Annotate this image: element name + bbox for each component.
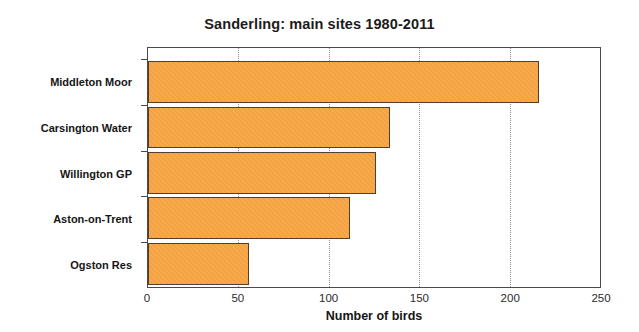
bars-layer xyxy=(148,48,600,287)
bar-ogston-res[interactable] xyxy=(148,243,249,285)
x-axis-tick-label-200: 200 xyxy=(501,292,520,304)
y-axis-label-ogston-res: Ogston Res xyxy=(70,259,132,271)
bar-aston-on-trent[interactable] xyxy=(148,197,350,239)
x-axis-tick-label-150: 150 xyxy=(410,292,429,304)
bar-willington-gp[interactable] xyxy=(148,152,376,194)
x-axis-tick-label-50: 50 xyxy=(231,292,244,304)
x-axis-tick-label-250: 250 xyxy=(591,292,610,304)
bar-chart-figure: Sanderling: main sites 1980-2011 Middlet… xyxy=(0,0,639,332)
bar-slot-ogston-res xyxy=(148,243,600,285)
y-axis-label-aston-on-trent: Aston-on-Trent xyxy=(53,213,132,225)
x-axis-title: Number of birds xyxy=(147,309,601,323)
x-axis-tick-label-0: 0 xyxy=(144,292,150,304)
bar-slot-willington-gp xyxy=(148,152,600,194)
plot-area xyxy=(147,47,601,288)
y-axis-label-willington-gp: Willington GP xyxy=(60,168,132,180)
bar-slot-carsington-water xyxy=(148,107,600,149)
bar-slot-aston-on-trent xyxy=(148,197,600,239)
y-axis-category-labels: Middleton Moor Carsington Water Willingt… xyxy=(0,47,140,288)
x-axis-tick-labels: 0 50 100 150 200 250 xyxy=(147,292,601,308)
y-axis-label-middleton-moor: Middleton Moor xyxy=(50,76,132,88)
chart-title: Sanderling: main sites 1980-2011 xyxy=(0,16,639,32)
bar-middleton-moor[interactable] xyxy=(148,61,539,103)
bar-slot-middleton-moor xyxy=(148,61,600,103)
bar-carsington-water[interactable] xyxy=(148,107,390,149)
x-axis-tick-label-100: 100 xyxy=(319,292,338,304)
y-axis-label-carsington-water: Carsington Water xyxy=(41,122,132,134)
